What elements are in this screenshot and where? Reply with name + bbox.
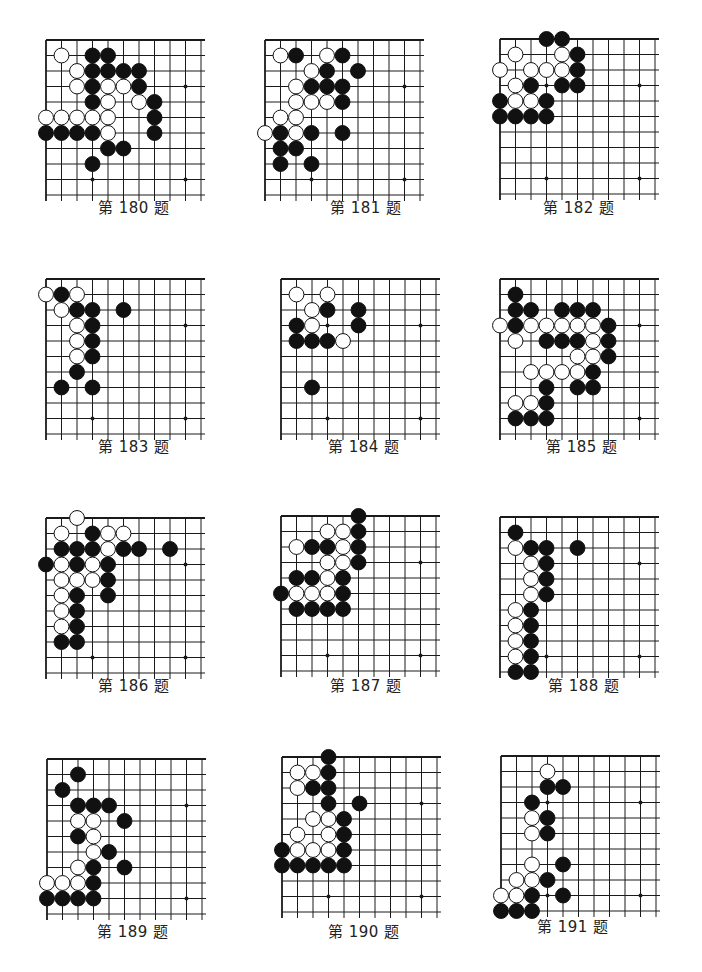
black-stone [273,141,288,156]
go-board [490,29,673,212]
white-stone [39,110,54,125]
black-stone [508,303,523,318]
white-stone [508,94,523,109]
white-stone [306,843,321,858]
white-stone [71,876,86,891]
go-board [36,508,219,691]
white-stone [258,126,273,141]
black-stone [321,750,336,765]
black-stone [337,812,352,827]
white-stone [55,876,70,891]
black-stone [556,780,571,795]
white-stone [525,873,540,888]
white-stone [321,843,336,858]
black-stone [540,811,555,826]
black-stone [101,557,116,572]
white-stone [70,110,85,125]
white-stone [101,126,116,141]
black-stone [320,303,335,318]
black-stone [524,603,539,618]
white-stone [101,542,116,557]
white-stone [586,318,601,333]
problem-caption: 第 183 题 [98,435,170,456]
black-stone [556,888,571,903]
white-stone [320,95,335,110]
black-stone [336,586,351,601]
go-board [490,507,673,690]
black-stone [304,126,319,141]
star-point [184,85,188,89]
star-point [545,655,549,659]
black-stone [570,78,585,93]
problem-caption: 第 182 题 [543,196,615,217]
black-stone [85,126,100,141]
white-stone [70,287,85,302]
black-stone [335,126,350,141]
white-stone [101,79,116,94]
black-stone [147,110,162,125]
white-stone [306,765,321,780]
white-stone [54,48,69,63]
black-stone [305,602,320,617]
black-stone [570,47,585,62]
star-point [638,324,642,328]
star-point [184,656,188,660]
go-problem-191 [491,746,674,929]
white-stone [289,95,304,110]
go-problem-185 [490,269,673,452]
white-stone [290,843,305,858]
white-stone [508,78,523,93]
black-stone [524,541,539,556]
white-stone [289,79,304,94]
black-stone [335,95,350,110]
white-stone [70,573,85,588]
go-problem-189 [37,749,220,932]
black-stone [539,587,554,602]
black-stone [321,765,336,780]
star-point [326,324,330,328]
white-stone [54,526,69,541]
black-stone [85,334,100,349]
white-stone [101,110,116,125]
black-stone [493,109,508,124]
black-stone [101,141,116,156]
go-board [271,269,454,452]
black-stone [101,48,116,63]
white-stone [54,557,69,572]
star-point [184,563,188,567]
black-stone [539,411,554,426]
black-stone [524,411,539,426]
white-stone [509,888,524,903]
black-stone [586,303,601,318]
white-stone [289,126,304,141]
white-stone [290,781,305,796]
white-stone [508,334,523,349]
black-stone [71,798,86,813]
go-problem-182 [490,29,673,212]
white-stone [54,619,69,634]
black-stone [85,79,100,94]
white-stone [570,365,585,380]
star-point [419,324,423,328]
black-stone [539,334,554,349]
star-point [638,177,642,181]
black-stone [54,380,69,395]
black-stone [85,380,100,395]
black-stone [147,126,162,141]
black-stone [321,796,336,811]
star-point [326,417,330,421]
go-board [272,747,455,930]
white-stone [321,827,336,842]
black-stone [85,95,100,110]
go-problem-181 [255,30,438,213]
black-stone [116,64,131,79]
white-stone [289,586,304,601]
black-stone [289,334,304,349]
white-stone [336,334,351,349]
black-stone [556,857,571,872]
black-stone [540,873,555,888]
black-stone [586,365,601,380]
white-stone [85,110,100,125]
white-stone [508,634,523,649]
go-problem-186 [36,508,219,691]
